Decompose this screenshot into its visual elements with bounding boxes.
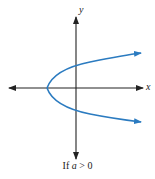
parabola-upper-branch: [47, 53, 141, 88]
parabola-graph: [0, 0, 155, 179]
y-axis-label: y: [79, 4, 83, 15]
caption-condition: > 0: [77, 160, 93, 171]
caption: If a > 0: [0, 160, 155, 171]
x-axis-label: x: [146, 81, 150, 92]
parabola-lower-branch: [47, 88, 141, 122]
caption-prefix: If: [63, 160, 72, 171]
